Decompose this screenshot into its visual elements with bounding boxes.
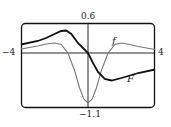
label-F: F [127,74,134,84]
x-min-tick-label: −4 [2,48,15,57]
y-max-tick-label: 0.6 [81,12,95,21]
y-min-tick-label: −1.1 [79,110,101,119]
label-f: f [112,36,116,46]
x-max-tick-label: 4 [158,48,164,57]
